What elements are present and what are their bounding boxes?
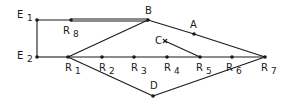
- label-R1-subscript: 1: [75, 66, 81, 76]
- node-R6-dot: [230, 55, 234, 59]
- label-D: D: [150, 80, 158, 91]
- label-C: C: [155, 35, 162, 46]
- label-R3: R: [131, 62, 138, 73]
- label-E2-subscript: 2: [27, 54, 33, 64]
- label-R5: R: [196, 62, 203, 73]
- node-A-dot: [192, 32, 196, 36]
- edge-A-R7: [194, 34, 265, 57]
- label-R6-subscript: 6: [236, 66, 242, 76]
- node-R2-dot: [100, 55, 104, 59]
- node-E1-dot: [35, 18, 39, 22]
- node-E2-dot: [35, 55, 39, 59]
- label-R6: R: [226, 62, 233, 73]
- node-R5-dot: [198, 55, 202, 59]
- node-R8-dot: [69, 18, 73, 22]
- edge-C-R5: [165, 41, 200, 57]
- label-R8-subscript: 8: [73, 29, 79, 39]
- label-R8: R: [63, 25, 70, 36]
- label-A: A: [190, 19, 197, 30]
- label-E2: E: [17, 50, 23, 61]
- label-R2: R: [99, 62, 106, 73]
- node-B-dot: [146, 18, 150, 22]
- label-R2-subscript: 2: [109, 66, 115, 76]
- node-R1-dot: [66, 55, 70, 59]
- node-R7-dot: [263, 55, 267, 59]
- label-R4: R: [164, 62, 171, 73]
- label-R1: R: [65, 62, 72, 73]
- edge-R1-D: [68, 57, 153, 96]
- label-R7-subscript: 7: [271, 66, 277, 76]
- edge-B-A: [148, 20, 194, 34]
- label-E1: E: [17, 9, 23, 20]
- network-diagram: E1E2R8BACR1R2R3R4R5R6R7D: [0, 0, 294, 106]
- label-R5-subscript: 5: [206, 66, 212, 76]
- label-R7: R: [261, 62, 268, 73]
- node-R3-dot: [132, 55, 136, 59]
- label-R4-subscript: 4: [174, 66, 180, 76]
- edge-R1-B: [68, 20, 148, 57]
- node-C-cross-icon: [163, 39, 167, 43]
- label-E1-subscript: 1: [27, 13, 33, 23]
- label-B: B: [145, 5, 152, 16]
- edge-R8-B: [71, 19, 148, 21]
- node-R4-dot: [165, 55, 169, 59]
- node-D-dot: [151, 94, 155, 98]
- label-R3-subscript: 3: [141, 66, 147, 76]
